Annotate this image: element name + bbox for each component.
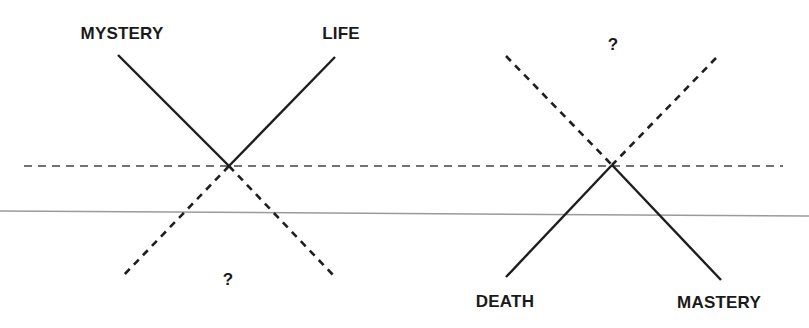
label-mystery: MYSTERY: [81, 25, 164, 42]
label-mastery: MASTERY: [677, 294, 761, 311]
label-unknown-bottom: ?: [223, 271, 234, 288]
upper-left-dashed-line: [506, 56, 612, 165]
crossing-lines-diagram: [0, 0, 809, 328]
mystery-solid-line: [118, 55, 229, 166]
label-unknown-top: ?: [608, 36, 619, 53]
left-lower-dashed-line: [122, 166, 229, 277]
label-life: LIFE: [322, 25, 360, 42]
life-solid-line: [229, 57, 335, 166]
label-death: DEATH: [476, 293, 534, 310]
diagram-canvas: MYSTERY LIFE ? ? DEATH MASTERY: [0, 0, 809, 328]
upper-right-dashed-line: [612, 58, 716, 165]
right-lower-dashed-line: [229, 166, 335, 277]
mastery-solid-line: [612, 165, 721, 280]
baseline-rule: [0, 211, 809, 216]
death-solid-line: [506, 165, 612, 277]
